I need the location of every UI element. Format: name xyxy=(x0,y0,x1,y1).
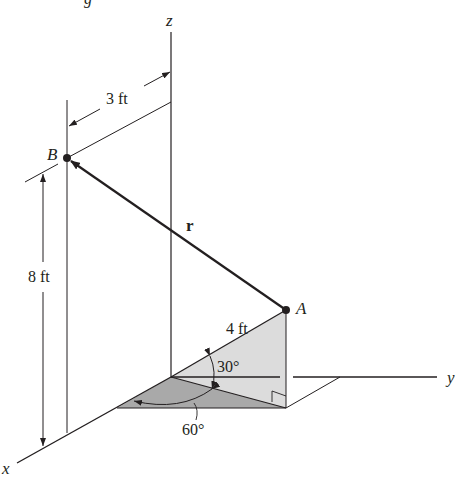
z-axis-label: z xyxy=(165,11,173,30)
dim-8ft-label: 8 ft xyxy=(28,268,50,285)
vector-r-label: r xyxy=(186,216,194,235)
elevation-angle-label: 30° xyxy=(217,358,239,375)
position-vector-r xyxy=(71,161,286,310)
azimuth-angle-label: 60° xyxy=(182,421,204,438)
length-OA-label: 4 ft xyxy=(226,320,248,337)
point-B-dot xyxy=(63,154,71,162)
y-offset-line xyxy=(286,377,340,408)
position-vector-diagram: g z y x 4 ft 30° 60° 3 ft 8 ft r A B xyxy=(0,0,465,479)
cropped-caption-text: g xyxy=(84,0,92,8)
point-B-label: B xyxy=(47,145,58,164)
dim-8ft-extension-top xyxy=(25,164,58,182)
x-axis-label: x xyxy=(1,459,10,478)
dim-3ft-arrow-left xyxy=(69,109,100,126)
point-A-label: A xyxy=(295,299,307,318)
dim-3ft-arrow-right xyxy=(144,72,170,86)
x-axis xyxy=(17,377,171,463)
y-axis-label: y xyxy=(445,368,455,387)
dim-3ft-label: 3 ft xyxy=(106,90,128,107)
diagram-canvas: g z y x 4 ft 30° 60° 3 ft 8 ft r A B xyxy=(0,0,465,479)
point-A-dot xyxy=(282,306,290,314)
B-extension-line xyxy=(67,102,171,158)
